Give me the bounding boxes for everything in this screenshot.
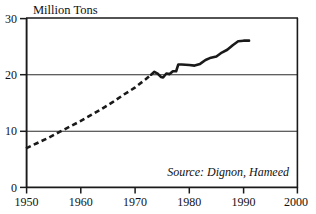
y-tick-label-10: 10	[5, 124, 17, 138]
chart-background	[0, 0, 316, 214]
source-annotation: Source: Dignon, Hameed	[167, 165, 290, 179]
y-tick-label-20: 20	[5, 68, 17, 82]
y-tick-label-0: 0	[11, 181, 17, 195]
y-tick-label-30: 30	[5, 12, 17, 26]
chart-title: Million Tons	[33, 3, 98, 17]
x-tick-label-1970: 1970	[123, 195, 147, 209]
chart-container: 0 10 20 30 1950 1960 1970 1980 1990 2000…	[0, 0, 316, 214]
x-tick-label-1990: 1990	[232, 195, 256, 209]
line-chart: 0 10 20 30 1950 1960 1970 1980 1990 2000…	[0, 0, 316, 214]
x-tick-label-1950: 1950	[15, 195, 39, 209]
x-tick-label-1980: 1980	[177, 195, 201, 209]
x-tick-label-1960: 1960	[69, 195, 93, 209]
x-tick-label-2000: 2000	[284, 195, 308, 209]
